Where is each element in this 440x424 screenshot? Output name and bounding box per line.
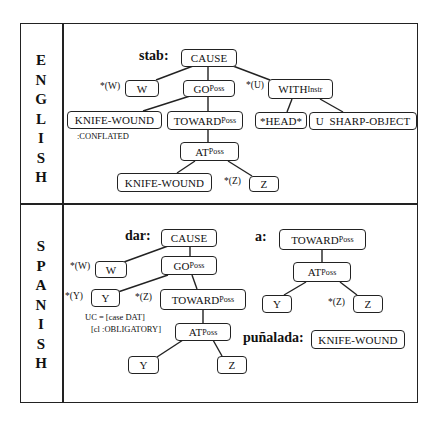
marker-z: *(Z) [224,176,241,186]
node-label: W [106,264,116,276]
node-cause: CAUSE [181,49,237,67]
node-label: Z [261,178,268,190]
node-y: Y [91,289,120,307]
node-label: Y [101,292,109,304]
letter: G [20,90,62,110]
node-subscript: Poss [339,235,354,244]
letter: I [20,315,62,335]
node-label: W [137,83,147,95]
letter: L [20,110,62,130]
node-label: KNIFE-WOUND [75,114,154,126]
node-subscript: Poss [321,268,336,277]
language-label-spanish: S P A N I S H [20,237,62,374]
node-label: GO [193,83,209,95]
node-head: *HEAD* [255,112,307,129]
letter: S [20,335,62,355]
node-label: *HEAD* [260,115,302,127]
node-subscript: Poss [202,328,217,337]
node-subscript: Poss [210,84,225,93]
language-label-english: E N G L I S H [20,51,62,188]
node-knife-wound-conflated: KNIFE-WOUND [67,111,162,129]
node-label: AT [189,326,203,338]
node-go-poss: GOPoss [183,80,235,97]
node-w: W [95,261,127,278]
note-conflated: :CONFLATED [77,131,129,141]
node-sharp-object: U SHARP-OBJECT [309,112,417,130]
marker-w: *(W) [70,261,90,271]
node-cause: CAUSE [161,229,217,247]
node-label: WITH [278,83,307,95]
letter: H [20,168,62,188]
node-label: AT [195,146,209,158]
node-label: Y [139,359,147,371]
word-stab: stab: [139,48,169,64]
letter: N [20,71,62,91]
marker-y: *(Y) [65,291,83,301]
letter: H [20,354,62,374]
node-knife-wound: KNIFE-WOUND [117,173,212,192]
word-dar: dar: [125,228,151,244]
node-subscript: Poss [209,147,224,156]
node-at-poss: ATPoss [175,323,231,341]
marker-w: *(W) [100,81,120,91]
node-label: Z [229,359,236,371]
note-case: UC = [case DAT] [85,312,145,322]
node-toward-poss: TOWARDPoss [160,289,246,310]
node-z: Z [353,295,383,313]
marker-z: *(Z) [328,297,345,307]
node-label: CAUSE [191,52,228,64]
node-label: AT [308,266,322,278]
node-with-instr: WITHInstr [268,79,333,99]
word-punalada: puñalada: [243,330,304,346]
node-label: Z [365,298,372,310]
node-label: TOWARD [291,234,338,246]
marker-z: *(Z) [135,292,152,302]
letter: S [20,237,62,257]
marker-u: *(U) [246,80,264,90]
word-a: a: [255,229,267,245]
node-y: Y [262,295,292,313]
node-z: Z [249,176,279,192]
node-toward-poss: TOWARDPoss [279,229,366,250]
node-label: Y [273,298,281,310]
letter: S [20,149,62,169]
letter: N [20,296,62,316]
node-w: W [125,80,159,97]
node-label: KNIFE-WOUND [125,177,204,189]
node-z-bottom: Z [217,356,247,374]
node-label: CAUSE [171,232,208,244]
note-clitic: [cl :OBLIGATORY] [91,324,161,334]
node-knife-wound: KNIFE-WOUND [311,330,405,349]
node-label: TOWARD [174,115,221,127]
node-y-bottom: Y [128,356,159,374]
node-label: GO [173,260,189,272]
letter: P [20,257,62,277]
letter: I [20,129,62,149]
node-go-poss: GOPoss [161,256,217,275]
node-label: U SHARP-OBJECT [316,115,410,127]
letter: E [20,51,62,71]
node-label: KNIFE-WOUND [318,334,397,346]
node-label: TOWARD [172,294,219,306]
node-subscript: Poss [219,295,234,304]
letter: A [20,276,62,296]
node-subscript: Instr [307,85,322,94]
node-subscript: Poss [221,116,236,125]
node-subscript: Poss [190,261,205,270]
node-at-poss: ATPoss [293,262,351,282]
node-toward-poss: TOWARDPoss [167,111,243,130]
node-at-poss: ATPoss [180,142,239,161]
